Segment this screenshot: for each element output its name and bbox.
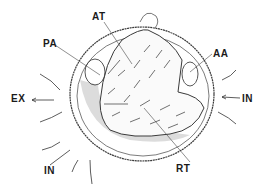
label-at: AT xyxy=(92,12,106,22)
gill-lamella xyxy=(100,30,204,137)
label-pa: PA xyxy=(43,39,57,49)
clam-drawing xyxy=(0,0,267,192)
label-in-right: IN xyxy=(242,94,253,104)
label-ex: EX xyxy=(11,94,25,104)
label-in-bottom: IN xyxy=(44,166,55,176)
anterior-adductor xyxy=(182,62,198,86)
umbo xyxy=(140,13,158,28)
label-rt: RT xyxy=(176,164,190,174)
label-aa: AA xyxy=(213,49,228,59)
